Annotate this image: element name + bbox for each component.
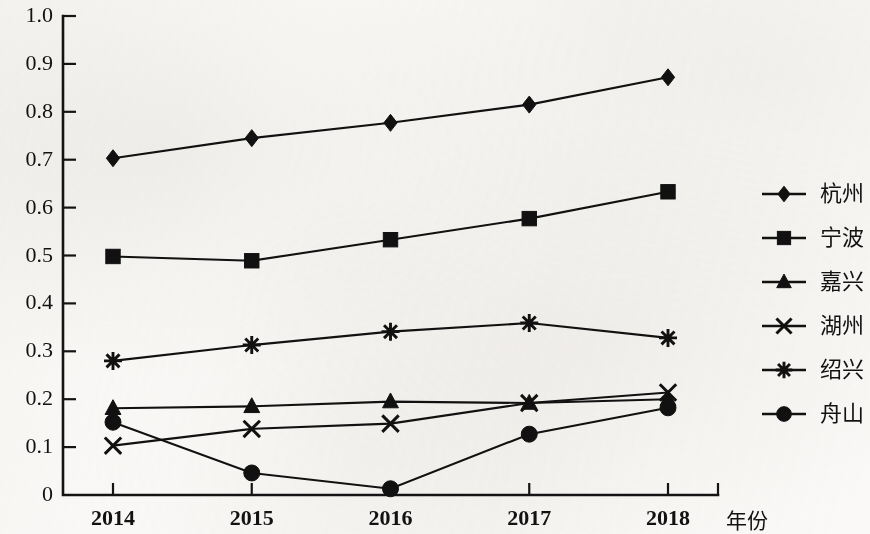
y-axis-tick-label: 0.8 xyxy=(26,98,54,123)
circle-marker xyxy=(660,400,676,416)
series-circle xyxy=(105,400,676,497)
x-axis-tick-label: 2018 xyxy=(646,505,690,530)
triangle-marker xyxy=(105,400,121,415)
legend-label: 嘉兴 xyxy=(820,269,864,294)
star-marker xyxy=(104,352,122,370)
chart-legend: 杭州宁波嘉兴湖州绍兴舟山 xyxy=(762,181,864,426)
series-polyline xyxy=(113,408,668,489)
series-polyline xyxy=(113,192,668,261)
square-marker xyxy=(661,185,675,199)
legend-label: 杭州 xyxy=(820,181,864,206)
y-axis: 00.10.20.30.40.50.60.70.80.91.0 xyxy=(26,2,719,506)
legend-item-舟山: 舟山 xyxy=(762,401,864,426)
star-marker xyxy=(520,314,538,332)
diamond-marker xyxy=(245,130,258,147)
y-axis-tick-label: 0.7 xyxy=(26,146,54,171)
series-square xyxy=(106,185,675,268)
series-triangle xyxy=(105,391,676,415)
square-marker xyxy=(777,231,790,244)
legend-item-绍兴: 绍兴 xyxy=(762,357,864,382)
legend-label: 宁波 xyxy=(820,225,864,250)
legend-item-湖州: 湖州 xyxy=(762,313,864,338)
star-marker xyxy=(776,362,793,379)
legend-item-杭州: 杭州 xyxy=(762,181,864,206)
y-axis-tick-label: 0 xyxy=(42,481,53,506)
square-marker xyxy=(245,254,259,268)
series-star xyxy=(104,314,677,370)
y-axis-tick-label: 0.5 xyxy=(26,242,54,267)
legend-label: 湖州 xyxy=(820,313,864,338)
y-axis-tick-label: 0.3 xyxy=(26,337,54,362)
circle-marker xyxy=(105,414,121,430)
series-diamond xyxy=(106,69,674,167)
y-axis-tick-label: 0.9 xyxy=(26,50,54,75)
legend-label: 舟山 xyxy=(820,401,864,426)
y-axis-tick-label: 0.1 xyxy=(26,433,54,458)
y-axis-tick-label: 1.0 xyxy=(26,2,54,27)
x-axis-title: 年份 xyxy=(726,509,768,532)
triangle-marker xyxy=(383,393,399,408)
square-marker xyxy=(106,249,120,263)
diamond-marker xyxy=(384,114,397,131)
line-chart-figure: 00.10.20.30.40.50.60.70.80.91.0 20142015… xyxy=(0,0,870,534)
circle-marker xyxy=(777,407,792,422)
legend-item-宁波: 宁波 xyxy=(762,225,864,250)
star-marker xyxy=(243,336,261,354)
y-axis-tick-label: 0.2 xyxy=(26,385,54,410)
data-series-group xyxy=(104,69,677,497)
x-axis-tick-label: 2016 xyxy=(369,505,413,530)
legend-label: 绍兴 xyxy=(820,357,864,382)
diamond-marker xyxy=(661,69,674,86)
x-axis: 20142015201620172018 xyxy=(91,483,718,530)
x-axis-tick-label: 2017 xyxy=(507,505,551,530)
y-axis-tick-label: 0.4 xyxy=(26,289,54,314)
star-marker xyxy=(659,329,677,347)
legend-item-嘉兴: 嘉兴 xyxy=(762,269,864,294)
star-marker xyxy=(382,323,400,341)
circle-marker xyxy=(383,481,399,497)
square-marker xyxy=(522,211,536,225)
diamond-marker xyxy=(523,96,536,113)
chart-canvas: 00.10.20.30.40.50.60.70.80.91.0 20142015… xyxy=(0,0,870,534)
x-axis-tick-label: 2014 xyxy=(91,505,135,530)
circle-marker xyxy=(244,465,260,481)
x-axis-tick-label: 2015 xyxy=(230,505,274,530)
diamond-marker xyxy=(778,186,790,202)
square-marker xyxy=(383,232,397,246)
circle-marker xyxy=(521,426,537,442)
diamond-marker xyxy=(106,150,119,167)
y-axis-tick-label: 0.6 xyxy=(26,194,54,219)
